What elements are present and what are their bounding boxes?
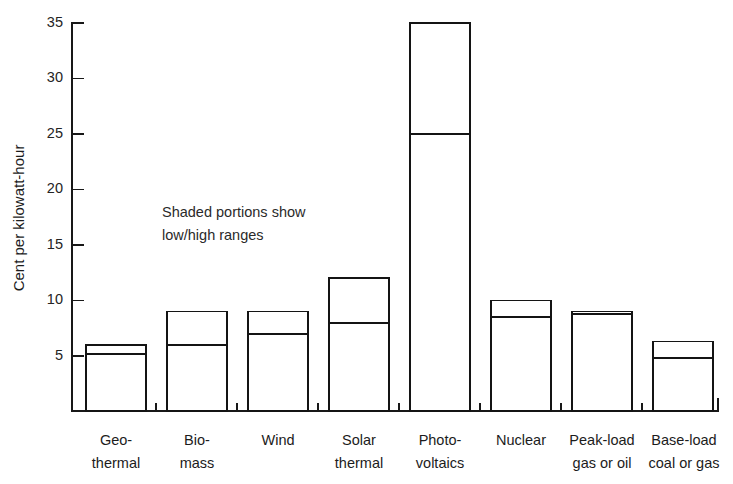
cat-label-base-load-line1: Base-load — [651, 432, 716, 448]
cat-label-bio-mass-line1: Bio- — [184, 432, 210, 448]
annotation-shaded-portions: Shaded portions show low/high ranges — [162, 204, 306, 243]
x-axis-category-labels: Geo- thermal Bio- mass Wind Solar therma… — [92, 432, 720, 471]
bar-chart: Cent per kilowatt-hour 35 30 25 20 15 10… — [0, 0, 733, 484]
cat-label-wind-line1: Wind — [261, 432, 294, 448]
bar-rect-geo-thermal[interactable] — [86, 345, 146, 411]
cat-label-peak-load-line2: gas or oil — [573, 455, 632, 471]
bar-bio-mass[interactable] — [167, 312, 227, 412]
y-tick-label-25: 25 — [47, 125, 63, 141]
bar-wind[interactable] — [248, 312, 308, 412]
y-axis-ticks: 35 30 25 20 15 10 5 — [47, 14, 84, 363]
bar-rect-solar-thermal[interactable] — [329, 278, 389, 411]
cat-label-geo-thermal-line1: Geo- — [100, 432, 132, 448]
y-tick-label-15: 15 — [47, 236, 63, 252]
cat-label-geo-thermal-line2: thermal — [92, 455, 140, 471]
cat-label-solar-thermal-line2: thermal — [335, 455, 383, 471]
cat-label-bio-mass-line2: mass — [180, 455, 215, 471]
y-tick-label-30: 30 — [47, 69, 63, 85]
bar-solar-thermal[interactable] — [329, 278, 389, 411]
y-tick-label-5: 5 — [55, 347, 63, 363]
cat-label-peak-load-line1: Peak-load — [569, 432, 634, 448]
bar-base-load-coal-or-gas[interactable] — [653, 342, 713, 412]
y-axis-label: Cent per kilowatt-hour — [10, 145, 27, 292]
bar-nuclear[interactable] — [491, 301, 551, 412]
bar-rect-base-load[interactable] — [653, 342, 713, 412]
bar-rect-photovoltaics[interactable] — [410, 23, 470, 411]
cat-label-nuclear-line1: Nuclear — [496, 432, 546, 448]
y-axis-label-group: Cent per kilowatt-hour — [10, 145, 27, 292]
cat-label-base-load-line2: coal or gas — [649, 455, 720, 471]
x-axis-minor-ticks — [156, 403, 642, 411]
y-tick-label-35: 35 — [47, 14, 63, 30]
bar-rect-bio-mass[interactable] — [167, 312, 227, 412]
bar-photovoltaics[interactable] — [410, 23, 470, 411]
bar-rect-peak-load[interactable] — [572, 312, 632, 412]
annotation-line-2: low/high ranges — [162, 227, 264, 243]
bar-peak-load-gas-or-oil[interactable] — [572, 312, 632, 412]
y-tick-label-20: 20 — [47, 180, 63, 196]
cat-label-photovoltaics-line1: Photo- — [419, 432, 462, 448]
annotation-line-1: Shaded portions show — [162, 204, 306, 220]
y-tick-label-10: 10 — [47, 291, 63, 307]
chart-container: Cent per kilowatt-hour 35 30 25 20 15 10… — [0, 0, 733, 484]
cat-label-photovoltaics-line2: voltaics — [416, 455, 464, 471]
bar-geo-thermal[interactable] — [86, 345, 146, 411]
bar-rect-wind[interactable] — [248, 312, 308, 412]
cat-label-solar-thermal-line1: Solar — [342, 432, 376, 448]
